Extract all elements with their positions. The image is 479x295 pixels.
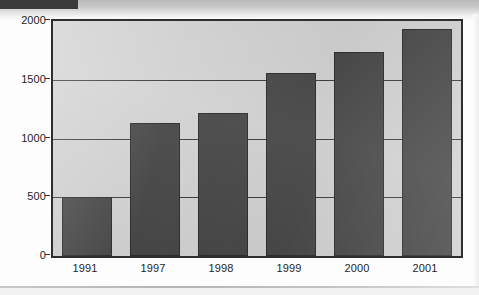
y-axis-tick-mark [45,137,50,138]
x-axis-tick-label: 1991 [51,262,119,274]
bar[interactable] [130,123,180,256]
y-axis-tick-label: 1500 [2,73,46,85]
bar[interactable] [62,197,112,256]
x-axis-tick-label: 1997 [119,262,187,274]
y-axis-tick-label: 1000 [2,132,46,144]
bar[interactable] [402,29,452,256]
x-axis-tick-label: 1999 [255,262,323,274]
gridline [53,197,461,198]
scan-top-dark-mark [0,0,78,9]
bar-chart: 0500100015002000199119971998199920002001 [0,14,479,286]
gridline [53,139,461,140]
y-axis-tick-mark [45,195,50,196]
y-axis-tick-mark [45,19,50,20]
y-axis-tick-label: 0 [2,249,46,261]
x-axis-tick-label: 2001 [391,262,459,274]
bar[interactable] [198,113,248,256]
y-axis-tick-mark [45,78,50,79]
scan-bottom-fill [0,288,479,295]
bar[interactable] [334,52,384,256]
y-axis-tick-label: 2000 [2,14,46,26]
plot-inner [53,21,461,256]
bar[interactable] [266,73,316,256]
x-axis-tick-label: 2000 [323,262,391,274]
y-axis-tick-mark [45,254,50,255]
gridline [53,80,461,81]
x-axis-tick-label: 1998 [187,262,255,274]
y-axis-tick-label: 500 [2,190,46,202]
plot-area [51,19,463,258]
